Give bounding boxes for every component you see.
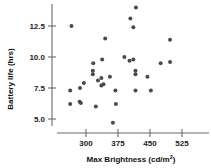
plot-canvas: 5.07.510.012.5Battery life (hrs)30037545… [0, 0, 211, 168]
scatter-point [134, 5, 138, 9]
x-axis-title: Max Brightness (cd/m2) [87, 154, 176, 164]
scatter-point [103, 36, 107, 40]
y-axis-title: Battery life (hrs) [6, 48, 15, 110]
scatter-point [99, 76, 103, 80]
y-axis-tick-label: 7.5 [34, 84, 46, 93]
x-axis-tick-label: 375 [111, 139, 125, 148]
scatter-point [99, 84, 103, 88]
scatter-plot-figure: 5.07.510.012.5Battery life (hrs)30037545… [0, 0, 211, 168]
scatter-point [133, 69, 137, 73]
x-axis-tick-label: 300 [79, 139, 93, 148]
scatter-point [145, 75, 149, 79]
y-axis-tick-label: 5.0 [34, 115, 46, 124]
scatter-point [79, 101, 83, 105]
scatter-point [114, 102, 118, 106]
scatter-point [128, 59, 132, 63]
scatter-point [78, 86, 82, 90]
scatter-point [68, 88, 72, 92]
x-axis-tick-label: 525 [175, 139, 189, 148]
scatter-point [133, 72, 137, 76]
scatter-point [69, 24, 73, 28]
scatter-point [149, 88, 153, 92]
x-axis-tick-label: 450 [143, 139, 157, 148]
scatter-point [113, 88, 117, 92]
scatter-point [94, 105, 98, 109]
scatter-point [91, 69, 95, 73]
scatter-point [168, 60, 172, 64]
scatter-point [168, 38, 172, 42]
scatter-point [133, 88, 137, 92]
scatter-point [128, 17, 132, 21]
scatter-point [68, 102, 72, 106]
y-axis-tick-label: 12.5 [29, 22, 45, 31]
y-axis-tick-label: 10.0 [29, 53, 45, 62]
scatter-point [91, 72, 95, 76]
scatter-point [108, 75, 112, 79]
scatter-point [82, 81, 86, 85]
scatter-point [131, 57, 135, 61]
scatter-point [131, 25, 135, 29]
scatter-point [96, 79, 100, 83]
scatter-point [91, 61, 95, 65]
scatter-point [122, 55, 126, 59]
scatter-point [100, 57, 104, 61]
scatter-point [111, 121, 115, 125]
scatter-point [159, 61, 163, 65]
